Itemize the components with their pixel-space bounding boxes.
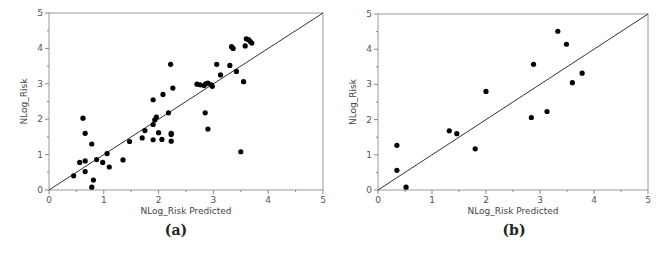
y-tick-label: 0 (37, 185, 43, 195)
caption-a: (a) (146, 222, 206, 238)
data-point (454, 131, 459, 136)
data-point (151, 97, 156, 102)
data-point (249, 40, 254, 45)
data-point (142, 128, 147, 133)
data-point (91, 177, 96, 182)
x-axis-label: NLog_Risk Predicted (140, 206, 231, 216)
x-tick-label: 2 (156, 195, 162, 205)
data-point (107, 164, 112, 169)
data-point (94, 157, 99, 162)
y-tick-label: 4 (37, 43, 43, 53)
data-point (564, 42, 569, 47)
data-point (140, 135, 145, 140)
identity-line (378, 14, 648, 190)
data-point (403, 185, 408, 190)
data-point (544, 109, 549, 114)
data-point (555, 29, 560, 34)
data-point (218, 72, 223, 77)
x-tick-label: 2 (483, 195, 489, 205)
y-tick-label: 1 (37, 150, 43, 160)
data-point (580, 71, 585, 76)
data-point (120, 157, 125, 162)
data-point (394, 168, 399, 173)
x-axis-label: NLog_Risk Predicted (467, 206, 558, 216)
data-point (169, 132, 174, 137)
data-point (151, 122, 156, 127)
data-point (80, 116, 85, 121)
x-tick-label: 1 (101, 195, 107, 205)
x-tick-label: 0 (375, 195, 381, 205)
data-point (83, 169, 88, 174)
y-tick-label: 1 (366, 150, 372, 160)
data-point (166, 110, 171, 115)
data-point (83, 158, 88, 163)
data-point (227, 63, 232, 68)
data-point (241, 79, 246, 84)
data-point (529, 115, 534, 120)
data-point (160, 92, 165, 97)
data-point (104, 151, 109, 156)
data-point (168, 62, 173, 67)
data-point (447, 128, 452, 133)
data-point (203, 110, 208, 115)
y-tick-label: 2 (37, 114, 43, 124)
data-point (234, 69, 239, 74)
y-axis-label: NLog_Risk (19, 78, 29, 125)
scatter-plot-a: 012345012345NLog_Risk PredictedNLog_Risk (0, 0, 333, 220)
data-point (214, 62, 219, 67)
data-point (127, 139, 132, 144)
x-tick-label: 3 (537, 195, 543, 205)
data-point (473, 146, 478, 151)
data-point (100, 160, 105, 165)
data-point (159, 137, 164, 142)
x-tick-label: 0 (46, 195, 52, 205)
data-point (77, 160, 82, 165)
data-point (238, 149, 243, 154)
y-axis-label: NLog_Risk (348, 78, 358, 125)
data-point (83, 131, 88, 136)
y-tick-label: 0 (366, 185, 372, 195)
data-point (243, 43, 248, 48)
y-tick-label: 3 (37, 79, 43, 89)
x-tick-label: 3 (211, 195, 217, 205)
caption-b: (b) (484, 222, 544, 238)
data-point (154, 114, 159, 119)
data-point (170, 85, 175, 90)
y-tick-label: 5 (37, 8, 43, 18)
data-point (89, 185, 94, 190)
data-point (210, 84, 215, 89)
y-tick-label: 2 (366, 115, 372, 125)
data-point (169, 139, 174, 144)
y-tick-label: 4 (366, 44, 372, 54)
x-tick-label: 4 (265, 195, 271, 205)
x-tick-label: 1 (429, 195, 435, 205)
x-tick-label: 4 (591, 195, 597, 205)
chart-panel-a: 012345012345NLog_Risk PredictedNLog_Risk… (0, 0, 333, 257)
chart-panel-b: 012345012345NLog_Risk PredictedNLog_Risk… (333, 0, 666, 257)
y-tick-label: 3 (366, 79, 372, 89)
data-point (570, 80, 575, 85)
data-point (71, 173, 76, 178)
data-point (231, 46, 236, 51)
data-point (89, 141, 94, 146)
data-point (531, 62, 536, 67)
x-tick-label: 5 (645, 195, 651, 205)
data-point (156, 130, 161, 135)
data-point (394, 143, 399, 148)
scatter-plot-b: 012345012345NLog_Risk PredictedNLog_Risk (333, 0, 666, 220)
data-point (483, 89, 488, 94)
y-tick-label: 5 (366, 9, 372, 19)
data-point (151, 137, 156, 142)
x-tick-label: 5 (320, 195, 326, 205)
identity-line (49, 13, 323, 190)
data-point (205, 127, 210, 132)
